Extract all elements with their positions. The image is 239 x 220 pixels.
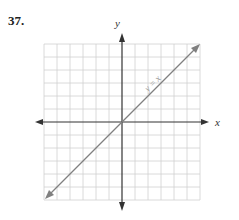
arrow-left-icon xyxy=(35,119,43,125)
coordinate-graph: y x y = x xyxy=(0,0,239,220)
x-axis-label: x xyxy=(214,116,220,128)
line-label: y = x xyxy=(142,73,163,94)
arrow-down-icon xyxy=(119,202,125,211)
arrow-right-icon xyxy=(201,119,209,125)
arrow-up-icon xyxy=(119,33,125,42)
y-axis-label: y xyxy=(114,17,120,29)
